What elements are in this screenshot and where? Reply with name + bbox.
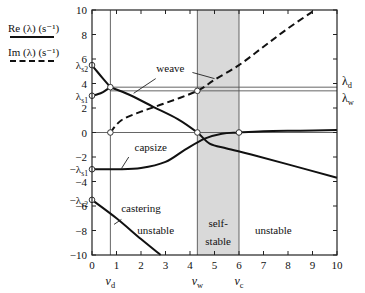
region-label: stable: [205, 235, 231, 247]
open-circle-marker: [195, 88, 201, 94]
x-tick-label: 10: [332, 259, 344, 271]
region-label: unstable: [137, 224, 174, 236]
x-tick-label: 0: [89, 259, 95, 271]
y-tick-label: 4: [82, 78, 88, 90]
x-tick-label: 7: [261, 259, 267, 271]
eigenvalue-marker-label: λw: [342, 91, 355, 107]
y-tick-label: 0: [82, 127, 88, 139]
y-tick-label: −8: [75, 225, 87, 237]
x-tick-label: 1: [114, 259, 120, 271]
x-tick-label: 4: [187, 259, 193, 271]
open-circle-marker: [108, 84, 114, 90]
open-circle-marker: [195, 130, 201, 136]
x-tick-label: 5: [212, 259, 218, 271]
open-circle-marker: [108, 130, 114, 136]
legend-item-real: Re (λ) (s⁻¹): [8, 22, 59, 46]
dashed-line-sample-icon: [10, 60, 54, 62]
x-tick-label: 3: [163, 259, 169, 271]
curve-label-weave: weave: [156, 62, 184, 74]
legend-label-real: Re (λ) (s⁻¹): [8, 22, 59, 34]
speed-marker-label: vc: [234, 274, 243, 290]
x-tick-label: 8: [285, 259, 291, 271]
x-tick-label: 2: [138, 259, 144, 271]
y-tick-label: 8: [82, 29, 88, 41]
legend-item-imag: Im (λ) (s⁻¹): [8, 46, 59, 70]
y-tick-label: −10: [70, 249, 88, 261]
legend-label-imag: Im (λ) (s⁻¹): [8, 46, 59, 58]
leader-line: [121, 157, 128, 169]
x-tick-label: 9: [310, 259, 316, 271]
x-tick-label: 6: [236, 259, 242, 271]
left-eigenvalue-label: λs1: [76, 90, 88, 105]
legend: Re (λ) (s⁻¹) Im (λ) (s⁻¹): [8, 22, 59, 70]
eigenvalue-marker-label: λd: [342, 74, 353, 90]
y-tick-label: 6: [82, 53, 88, 65]
open-circle-marker: [236, 130, 242, 136]
speed-marker-label: vw: [192, 274, 204, 290]
y-tick-label: 10: [76, 4, 88, 16]
speed-marker-label: vd: [106, 274, 116, 290]
region-label: unstable: [255, 224, 292, 236]
curve-label-capsize: capsize: [135, 141, 167, 153]
solid-line-sample-icon: [10, 36, 54, 38]
region-label: self-: [208, 217, 228, 229]
y-tick-label: −2: [75, 151, 87, 163]
curve-label-castering: castering: [121, 202, 161, 214]
